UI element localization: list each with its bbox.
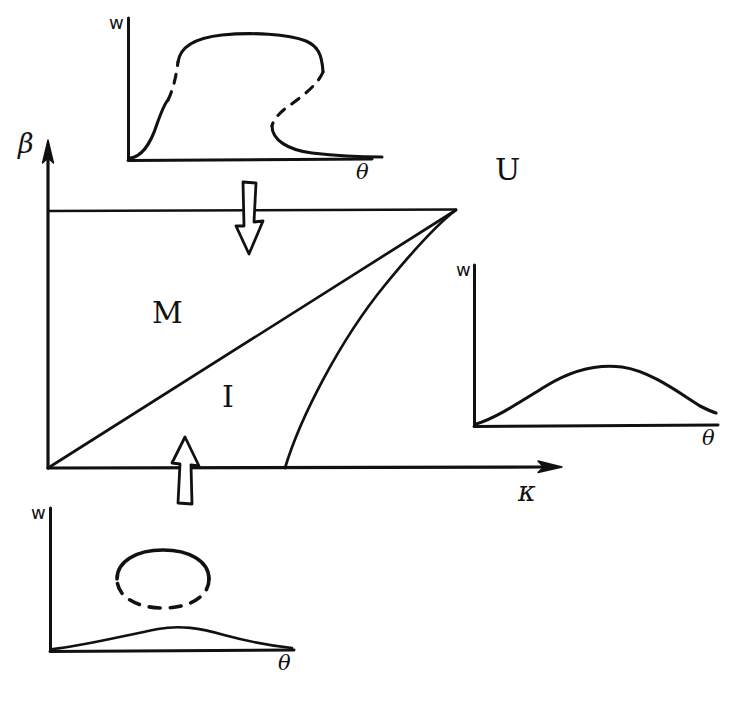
inset-bottom-low-stable-hump (53, 627, 292, 649)
main-x-axis-label: κ (518, 478, 536, 505)
arrow-down-to-top-inset (236, 182, 263, 254)
inset-right-x-axis (474, 425, 718, 427)
inset-bottom-y-axis-label: w (31, 504, 46, 522)
inset-top-x-axis-label: θ (356, 162, 369, 183)
phase-diagram-svg (0, 0, 738, 704)
arrow-up-to-bottom-inset (172, 437, 199, 504)
inset-bottom-isola-lower (117, 579, 209, 608)
inset-right-x-axis-label: θ (702, 428, 715, 449)
inset-top-unstable-left (168, 62, 178, 100)
curved-boundary (285, 210, 456, 468)
main-x-axis (48, 467, 545, 468)
main-y-axis-label: β (18, 130, 34, 157)
annotation-arrows-group (172, 182, 263, 504)
inset-bottom-x-axis-label: θ (278, 653, 291, 674)
inset-top-x-axis (128, 159, 372, 161)
inset-bottom-group (50, 508, 294, 652)
inset-right-group (474, 265, 718, 427)
inset-top-unstable-right (272, 72, 323, 126)
inset-top-upper-stable (178, 34, 323, 72)
inset-top-lower-stable-left (130, 100, 168, 158)
inset-top-lower-stable-right (272, 126, 382, 157)
inset-top-group (128, 18, 382, 161)
inset-bottom-isola-upper (117, 550, 209, 579)
inset-bottom-x-axis (50, 650, 294, 652)
figure-canvas: β κ M I U w θ w θ w θ (0, 0, 738, 704)
region-label-M: M (152, 298, 183, 328)
region-label-U: U (495, 155, 520, 185)
region-label-I: I (222, 382, 234, 412)
inset-right-stable-branch (476, 366, 716, 424)
inset-top-y-axis-label: w (109, 14, 124, 32)
inset-right-y-axis-label: w (456, 261, 471, 279)
